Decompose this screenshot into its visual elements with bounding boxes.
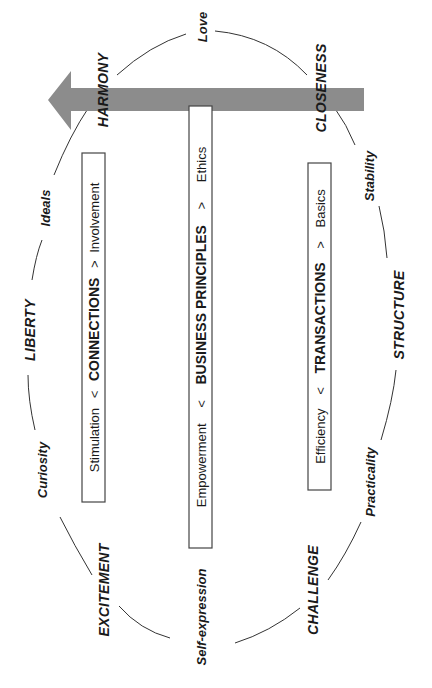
arc-closeness-stability bbox=[334, 107, 355, 145]
box-connections: Stimulation < CONNECTIONS > Involvement bbox=[82, 153, 105, 502]
arc-challenge-selfexp bbox=[235, 608, 300, 643]
ring-label-love: Love bbox=[195, 12, 210, 42]
ring-label-curiosity: Curiosity bbox=[35, 441, 50, 498]
arc-structure-practicality bbox=[381, 370, 396, 440]
box-business-principles: Empowerment < BUSINESS PRINCIPLES > Ethi… bbox=[189, 106, 212, 548]
transactions-title: TRANSACTIONS bbox=[312, 262, 328, 373]
arc-curiosity-excitement bbox=[60, 517, 92, 575]
business-principles-lt: < bbox=[194, 400, 209, 408]
ring-label-liberty: LIBERTY bbox=[22, 298, 38, 361]
business-principles-right-label: Ethics bbox=[194, 146, 209, 182]
ring-label-structure: STRUCTURE bbox=[391, 270, 407, 359]
ring-label-excitement: EXCITEMENT bbox=[96, 542, 112, 636]
connections-title: CONNECTIONS bbox=[86, 278, 102, 381]
transactions-gt: > bbox=[313, 241, 328, 249]
arc-ideals-liberty bbox=[32, 240, 42, 280]
transactions-lt: < bbox=[313, 387, 328, 395]
business-principles-row: Empowerment < BUSINESS PRINCIPLES > Ethi… bbox=[193, 146, 209, 507]
connections-lt: < bbox=[87, 391, 102, 399]
business-principles-title: BUSINESS PRINCIPLES bbox=[193, 225, 209, 384]
ring-label-harmony: HARMONY bbox=[95, 51, 111, 127]
transactions-right-label: Basics bbox=[313, 189, 328, 228]
business-principles-gt: > bbox=[194, 202, 209, 210]
transactions-left-label: Efficiency bbox=[313, 408, 328, 464]
ring-label-ideals: Ideals bbox=[38, 190, 53, 227]
arc-excitement-selfexp bbox=[119, 606, 170, 638]
ring-label-self-expression: Self-expression bbox=[194, 569, 209, 666]
arc-practicality-challenge bbox=[328, 522, 361, 580]
connections-right-label: Involvement bbox=[87, 182, 102, 252]
ring-label-stability: Stability bbox=[362, 150, 377, 201]
box-transactions: Efficiency < TRANSACTIONS > Basics bbox=[308, 163, 331, 490]
arc-liberty-curiosity bbox=[28, 375, 35, 430]
arc-love-harmony bbox=[117, 34, 186, 75]
arc-stability-structure bbox=[379, 206, 387, 258]
connections-left-label: Stimulation bbox=[87, 408, 102, 472]
ring-label-challenge: CHALLENGE bbox=[305, 545, 321, 635]
connections-gt: > bbox=[87, 260, 102, 268]
connections-row: Stimulation < CONNECTIONS > Involvement bbox=[86, 182, 102, 472]
ring-label-practicality: Practicality bbox=[363, 447, 378, 517]
ring-label-closeness: CLOSENESS bbox=[313, 43, 329, 132]
values-ring-diagram: Stimulation < CONNECTIONS > Involvement … bbox=[0, 0, 432, 688]
arc-love-closeness bbox=[215, 31, 307, 75]
business-principles-left-label: Empowerment bbox=[194, 423, 209, 507]
